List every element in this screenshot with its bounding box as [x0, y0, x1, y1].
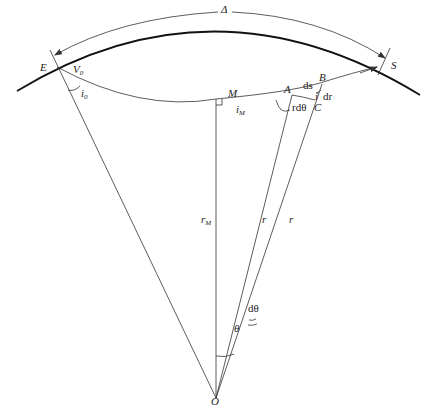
label-i0: i0	[81, 88, 88, 101]
label-O: O	[211, 396, 219, 407]
label-S: S	[391, 60, 397, 71]
label-dtheta: dθ	[248, 303, 259, 314]
radial-tick-S	[378, 48, 390, 75]
label-B: B	[319, 72, 326, 83]
label-A: A	[284, 84, 291, 95]
radial-line-E	[50, 50, 216, 398]
label-iM: iM	[236, 104, 245, 117]
label-r1: r	[262, 214, 266, 225]
delta-arc-left	[55, 12, 218, 55]
angle-A-arc	[276, 100, 290, 111]
label-dr: dr	[323, 91, 332, 102]
angle-i0-arc	[68, 86, 80, 91]
label-rdtheta: rdθ	[292, 102, 306, 113]
angle-dtheta-arc2	[248, 324, 257, 325]
angle-dtheta-arc	[249, 319, 256, 320]
label-delta: Δ	[221, 4, 227, 15]
label-V0: V0	[73, 64, 83, 77]
label-M: M	[228, 88, 237, 99]
label-C: C	[314, 102, 321, 113]
angle-theta-arc	[216, 354, 234, 357]
label-rM: rM	[201, 214, 211, 227]
label-theta: θ	[234, 323, 239, 334]
line-OB	[216, 84, 322, 398]
delta-arc-right	[232, 12, 385, 58]
line-OA	[216, 95, 292, 398]
label-r2: r	[289, 214, 293, 225]
label-ds: ds	[303, 80, 313, 91]
ray-path-diagram	[0, 0, 425, 409]
label-E: E	[40, 62, 47, 73]
right-angle-M	[216, 99, 222, 105]
arc-AC	[292, 95, 315, 100]
label-i: i	[315, 91, 318, 102]
